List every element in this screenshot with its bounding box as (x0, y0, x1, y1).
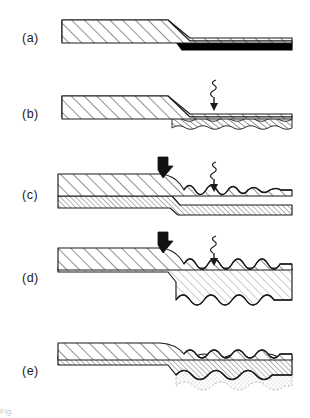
irradiation-symbol-d (210, 236, 218, 266)
pressure-arrow-c (158, 157, 173, 178)
pressure-arrow-d (158, 232, 173, 253)
figure-artwork (0, 0, 310, 418)
irradiation-symbol-b (210, 80, 218, 111)
partial-caption: Fig. (0, 406, 310, 418)
panel-label-b: (b) (22, 107, 39, 121)
panel-label-e: (e) (22, 364, 39, 378)
panel-label-a: (a) (22, 31, 39, 45)
panel-b-art (62, 96, 292, 129)
panel-label-d: (d) (22, 271, 39, 285)
figure-container: (a) (b) (c) (d) (e) Fig. (0, 0, 310, 418)
irradiation-symbol-c (210, 162, 218, 192)
panel-d-art (58, 248, 292, 305)
panel-c-art (58, 174, 292, 215)
panel-label-c: (c) (22, 188, 38, 202)
panel-a-art (62, 20, 292, 50)
panel-e-art (58, 343, 292, 390)
